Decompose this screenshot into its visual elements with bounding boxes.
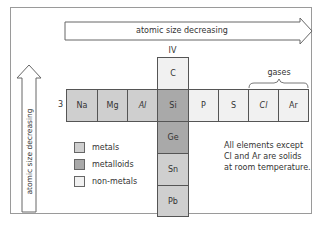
element-symbol: Si <box>169 101 176 110</box>
element-p: P <box>188 89 219 122</box>
element-symbol: Pb <box>168 197 178 206</box>
legend-label-metals: metals <box>92 143 119 152</box>
element-symbol: Ar <box>289 101 298 110</box>
element-na: Na <box>66 89 98 122</box>
element-si: Si <box>157 89 189 122</box>
note-line-1: All elements except <box>224 140 303 151</box>
element-ar: Ar <box>278 89 309 122</box>
element-symbol: Na <box>77 101 88 110</box>
element-symbol: P <box>201 101 206 110</box>
note-line-3: at room temperature. <box>224 162 311 173</box>
vertical-arrow-label: atomic size decreasing <box>25 102 34 202</box>
element-al: Al <box>127 89 158 122</box>
element-symbol: Al <box>139 101 147 110</box>
period-label: 3 <box>58 100 63 109</box>
legend-label-metalloids: metalloids <box>92 160 134 169</box>
element-c: C <box>157 57 189 90</box>
element-symbol: Sn <box>168 165 178 174</box>
group-label: IV <box>157 46 188 55</box>
legend-swatch-non-metals <box>74 176 85 187</box>
note-line-2: Cl and Ar are solids <box>224 151 301 162</box>
element-symbol: Mg <box>107 101 119 110</box>
legend-swatch-metals <box>74 142 85 153</box>
element-symbol: S <box>231 101 236 110</box>
element-pb: Pb <box>157 185 189 217</box>
element-ge: Ge <box>157 121 189 154</box>
element-symbol: Cl <box>260 101 268 110</box>
horizontal-arrow-label: atomic size decreasing <box>64 26 300 35</box>
legend-label-non-metals: non-metals <box>92 177 137 186</box>
legend-swatch-metalloids <box>74 159 85 170</box>
element-cl: Cl <box>248 89 279 122</box>
element-symbol: Ge <box>167 133 178 142</box>
element-sn: Sn <box>157 153 189 186</box>
element-mg: Mg <box>97 89 128 122</box>
element-s: S <box>218 89 249 122</box>
gases-label: gases <box>250 68 308 77</box>
element-symbol: C <box>170 69 176 78</box>
